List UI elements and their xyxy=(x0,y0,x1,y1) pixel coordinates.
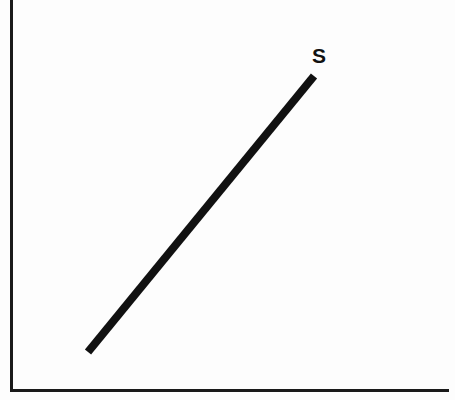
plot-background xyxy=(0,0,455,400)
plot-canvas xyxy=(0,0,455,400)
supply-curve-figure: S xyxy=(0,0,455,400)
supply-curve-label: S xyxy=(312,45,326,66)
